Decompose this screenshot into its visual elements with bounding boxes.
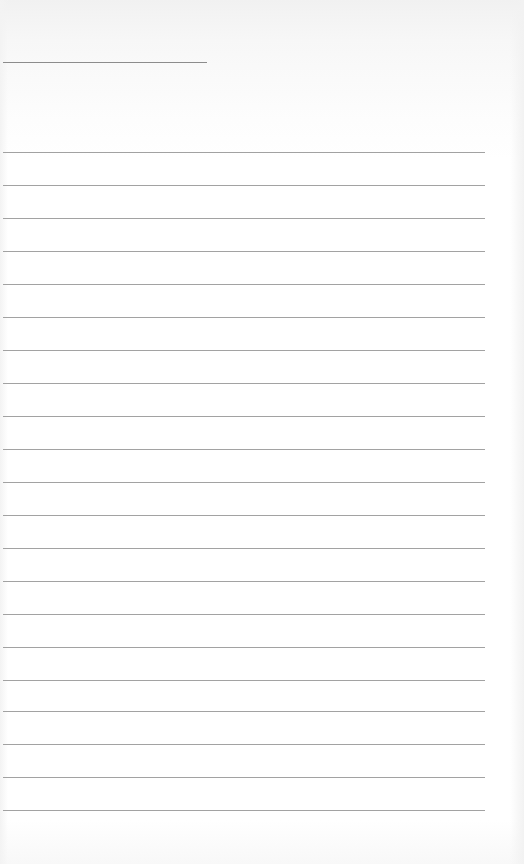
ruled-line bbox=[3, 548, 485, 549]
ruled-line bbox=[3, 810, 485, 811]
ruled-line bbox=[3, 416, 485, 417]
ruled-line bbox=[3, 614, 485, 615]
ruled-line bbox=[3, 680, 485, 681]
ruled-line bbox=[3, 284, 485, 285]
ruled-line bbox=[3, 744, 485, 745]
header-rule bbox=[3, 62, 207, 63]
ruled-line bbox=[3, 777, 485, 778]
ruled-line bbox=[3, 482, 485, 483]
ruled-line bbox=[3, 317, 485, 318]
page-right-edge-shadow bbox=[510, 0, 524, 864]
page-left-edge-shadow bbox=[0, 0, 8, 864]
ruled-line bbox=[3, 711, 485, 712]
ruled-line bbox=[3, 581, 485, 582]
ruled-line bbox=[3, 350, 485, 351]
ruled-line bbox=[3, 449, 485, 450]
ruled-line bbox=[3, 515, 485, 516]
ruled-line bbox=[3, 383, 485, 384]
ruled-line bbox=[3, 152, 485, 153]
lined-paper-page bbox=[0, 0, 524, 864]
ruled-line bbox=[3, 647, 485, 648]
ruled-line bbox=[3, 185, 485, 186]
ruled-line bbox=[3, 251, 485, 252]
ruled-line bbox=[3, 218, 485, 219]
